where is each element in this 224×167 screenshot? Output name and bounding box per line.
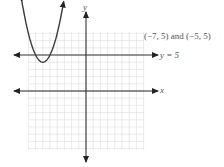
x-axis-label: x	[160, 86, 164, 95]
coordinate-plane	[0, 0, 224, 167]
line-equation-label: y = 5	[160, 51, 179, 60]
intersection-annotation: (−7, 5) and (−5, 5)	[144, 32, 211, 41]
y-axis-label: y	[83, 3, 87, 12]
